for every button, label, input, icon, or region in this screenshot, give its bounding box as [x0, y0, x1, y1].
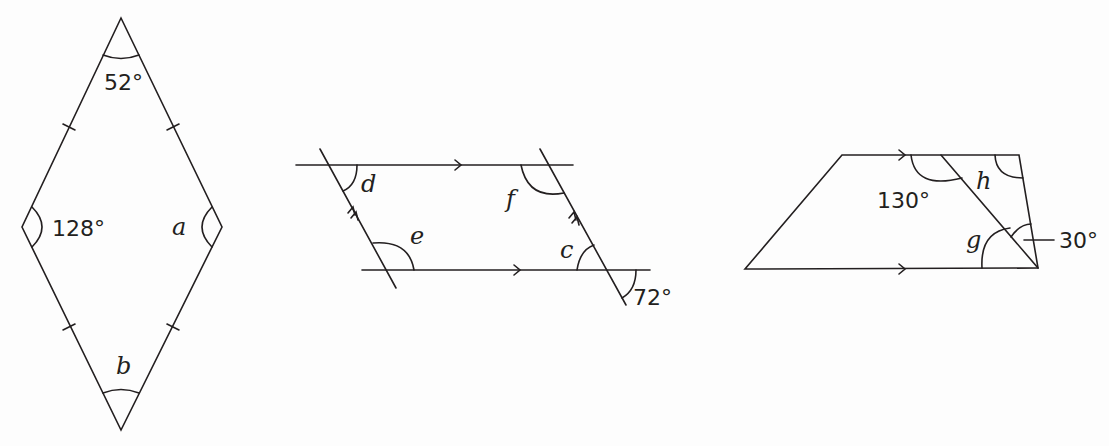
angle-label-52: 52°: [104, 70, 143, 95]
angle-label-b: b: [116, 352, 131, 380]
angle-arc-30: [1011, 224, 1031, 237]
rhombus: 52° 128° a b: [22, 18, 222, 430]
parallel-arrow-icon: [572, 217, 579, 225]
angle-label-f: f: [504, 185, 519, 213]
angle-arc-bottom: [103, 390, 139, 394]
right-transversal: [540, 149, 626, 305]
angle-arc-130: [911, 155, 962, 181]
angle-label-d: d: [361, 170, 376, 198]
angle-label-128: 128°: [52, 216, 105, 241]
angle-arc-left: [32, 207, 42, 247]
angle-arc-d: [343, 165, 357, 191]
angle-label-h: h: [976, 167, 991, 195]
angle-label-a: a: [172, 213, 186, 241]
parallelogram: d e f c 72°: [296, 149, 672, 310]
angle-label-72: 72°: [633, 285, 672, 310]
angle-label-g: g: [966, 226, 981, 254]
angle-arc-right: [202, 207, 212, 247]
angle-label-30: 30°: [1059, 228, 1098, 253]
angle-arc-c: [577, 245, 594, 270]
angle-label-e: e: [410, 222, 424, 250]
trapezium: 130° h g 30°: [745, 150, 1098, 274]
angle-label-c: c: [560, 236, 573, 264]
angle-label-130: 130°: [877, 188, 930, 213]
parallel-arrow-icon: [351, 212, 358, 220]
angle-arc-top: [103, 55, 139, 59]
angle-arc-g: [982, 228, 1010, 268]
geometry-figures: 52° 128° a b d e f c 72°: [0, 0, 1109, 446]
